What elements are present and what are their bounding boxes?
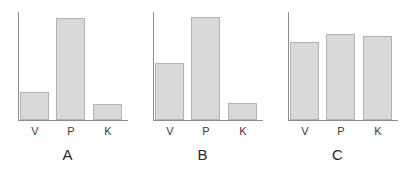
x-tick-label-a-v: V — [20, 124, 50, 138]
bar-group-b — [154, 12, 263, 120]
plot-area-c — [288, 12, 398, 120]
chart-panel-a: V P K A — [0, 0, 135, 176]
x-tick-label-c-k: K — [363, 124, 393, 138]
bar-c-k — [363, 36, 392, 120]
x-tick-label-b-p: P — [191, 124, 221, 138]
bar-b-p — [191, 17, 220, 120]
x-tick-label-c-p: P — [326, 124, 356, 138]
bar-group-a — [19, 12, 128, 120]
x-tick-label-c-v: V — [290, 124, 320, 138]
bar-group-c — [289, 12, 398, 120]
panel-title-a: A — [0, 146, 135, 164]
x-axis-line-c — [288, 120, 398, 121]
plot-area-b — [153, 12, 263, 120]
bar-a-p — [56, 18, 85, 120]
x-axis-line-a — [18, 120, 128, 121]
bar-c-p — [326, 34, 355, 120]
bar-a-v — [20, 92, 49, 120]
x-tick-label-a-k: K — [93, 124, 123, 138]
x-tick-label-b-v: V — [155, 124, 185, 138]
x-axis-line-b — [153, 120, 263, 121]
x-tick-label-b-k: K — [228, 124, 258, 138]
x-tick-labels-c: V P K — [288, 124, 398, 140]
chart-panel-b: V P K B — [135, 0, 270, 176]
panel-title-b: B — [135, 146, 270, 164]
x-tick-labels-b: V P K — [153, 124, 263, 140]
plot-area-a — [18, 12, 128, 120]
bar-c-v — [290, 42, 319, 120]
chart-panel-c: V P K C — [270, 0, 405, 176]
bar-b-k — [228, 103, 257, 120]
bar-a-k — [93, 104, 122, 120]
x-tick-labels-a: V P K — [18, 124, 128, 140]
bar-b-v — [155, 63, 184, 120]
x-tick-label-a-p: P — [56, 124, 86, 138]
panel-title-c: C — [270, 146, 405, 164]
bar-chart-figure: V P K A V P K B — [0, 0, 405, 176]
